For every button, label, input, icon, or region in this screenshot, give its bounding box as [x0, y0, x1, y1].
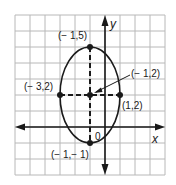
label-center-point: (− 1,2)	[131, 68, 160, 79]
point-top	[87, 44, 93, 50]
label-left-point: (− 3,2)	[24, 81, 53, 92]
point-right	[117, 92, 123, 98]
center-pointer-arrow	[94, 75, 130, 93]
origin-label: 0	[95, 131, 101, 142]
ellipse-diagram: (− 1,5) (− 3,2) (− 1,2) (1,2) (− 1,− 1) …	[0, 0, 176, 185]
x-axis-label: x	[151, 132, 159, 146]
point-center	[87, 92, 93, 98]
label-bottom-point: (− 1,− 1)	[51, 149, 89, 160]
point-bottom	[87, 140, 93, 146]
label-top-point: (− 1,5)	[58, 30, 87, 41]
label-right-point: (1,2)	[122, 100, 143, 111]
y-axis-label: y	[109, 17, 117, 31]
point-left	[57, 92, 63, 98]
